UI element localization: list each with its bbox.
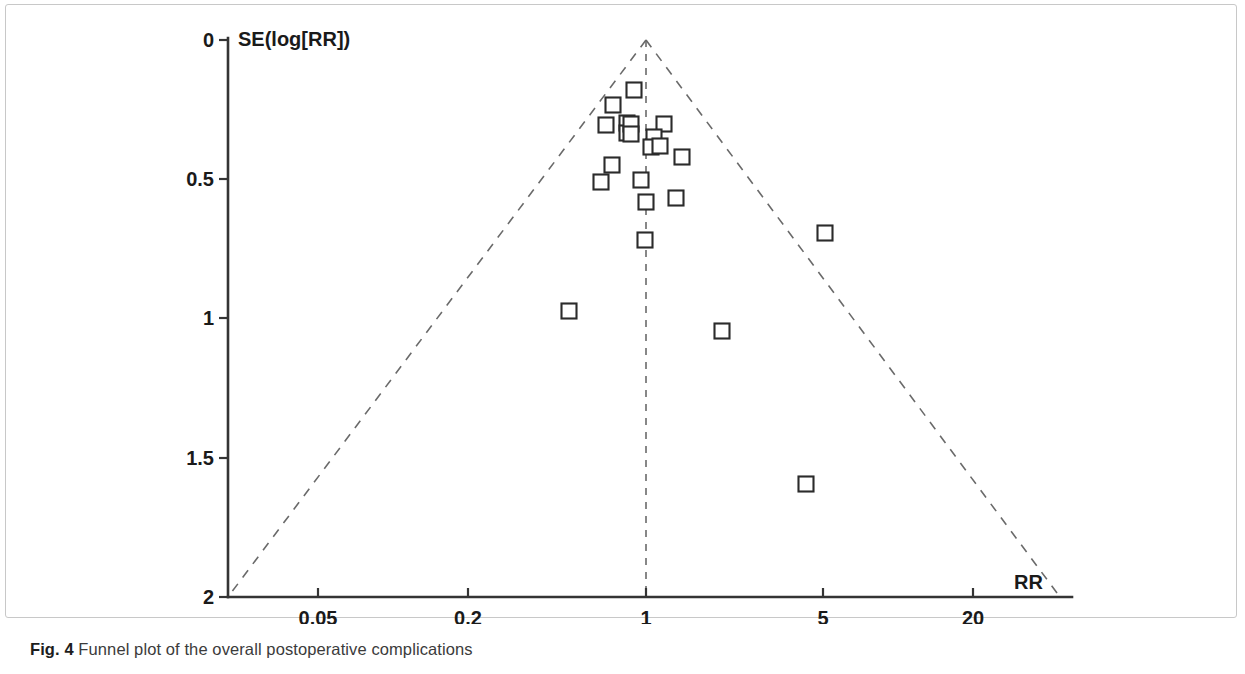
figure-caption-text: Funnel plot of the overall postoperative…	[74, 640, 473, 658]
data-point-marker	[599, 118, 614, 133]
x-axis-tick-label: 0.2	[454, 607, 482, 624]
data-point-markers	[562, 83, 833, 492]
x-axis-tick-label: 20	[962, 607, 984, 624]
data-point-marker	[562, 304, 577, 319]
axes	[219, 38, 1072, 598]
funnel-edge-left-line	[228, 40, 646, 597]
data-point-marker	[627, 83, 642, 98]
y-axis-tick-labels: 00.511.52	[186, 29, 214, 608]
data-point-marker	[624, 127, 639, 142]
y-axis-tick-label: 2	[203, 586, 214, 608]
figure-page: 00.511.52 0.050.21520 SE(log[RR]) RR Fig…	[0, 0, 1245, 674]
figure-caption: Fig. 4 Funnel plot of the overall postop…	[30, 640, 1130, 659]
x-axis-tick-label: 0.05	[299, 607, 338, 624]
funnel-guides	[228, 40, 1060, 597]
y-axis-tick-label: 0	[203, 29, 214, 51]
y-axis-tick-label: 1.5	[186, 447, 214, 469]
data-point-marker	[715, 324, 730, 339]
x-axis-title: RR	[1014, 571, 1043, 593]
data-point-marker	[605, 158, 620, 173]
y-axis-tick-label: 1	[203, 307, 214, 329]
data-point-marker	[818, 226, 833, 241]
funnel-edge-right-line	[646, 40, 1060, 597]
data-point-marker	[594, 175, 609, 190]
x-axis-tick-label: 1	[640, 607, 651, 624]
data-point-marker	[606, 98, 621, 113]
data-point-marker	[675, 150, 690, 165]
figure-caption-label: Fig. 4	[30, 640, 74, 658]
y-axis-title: SE(log[RR])	[238, 28, 350, 50]
data-point-marker	[639, 195, 654, 210]
data-point-marker	[653, 139, 668, 154]
data-point-marker	[638, 233, 653, 248]
x-axis-tick-labels: 0.050.21520	[299, 607, 985, 624]
data-point-marker	[799, 477, 814, 492]
x-axis-tick-label: 5	[817, 607, 828, 624]
funnel-plot-chart: 00.511.52 0.050.21520 SE(log[RR]) RR	[0, 0, 1245, 624]
data-point-marker	[634, 173, 649, 188]
y-axis-tick-label: 0.5	[186, 168, 214, 190]
data-point-marker	[669, 191, 684, 206]
